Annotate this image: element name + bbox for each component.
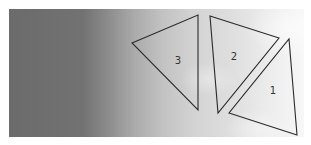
- triangle-2-label: 2: [231, 51, 237, 62]
- triangle-3: [132, 15, 198, 110]
- diagram-figure: 1 2 3: [0, 0, 311, 145]
- triangle-1-label: 1: [270, 85, 276, 96]
- triangle-3-label: 3: [175, 55, 181, 66]
- triangle-overlay: 1 2 3: [0, 0, 311, 145]
